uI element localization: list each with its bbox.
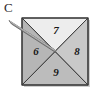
region-label-top: 7 (50, 25, 62, 36)
region-label-right: 8 (71, 46, 83, 57)
figure-panel: C 6 7 8 9 (0, 0, 94, 91)
panel-letter: C (4, 1, 13, 14)
region-label-bottom: 9 (50, 67, 62, 78)
region-label-left: 6 (30, 46, 42, 57)
